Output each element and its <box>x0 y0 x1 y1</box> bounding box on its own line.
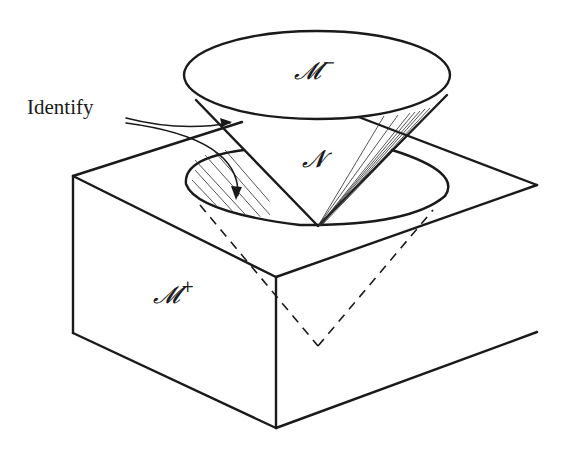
box-bottom-left-edge <box>73 333 276 428</box>
label-n-base: 𝓝 <box>302 145 325 173</box>
cone-box-diagram <box>0 0 575 455</box>
box-front-left-top-edge <box>73 176 276 277</box>
label-m-minus-sup: − <box>322 53 335 72</box>
label-identify: Identify <box>27 95 93 120</box>
label-n: 𝓝 <box>302 145 325 173</box>
box-top-right-edge <box>356 116 537 185</box>
label-identify-text: Identify <box>27 95 93 119</box>
label-m-plus-base: 𝓜 <box>153 281 180 309</box>
arrowhead-lower-icon <box>231 186 242 200</box>
label-m-minus-base: 𝓜 <box>294 57 321 85</box>
label-m-minus: 𝓜− <box>294 53 335 85</box>
label-m-plus-sup: + <box>181 277 194 296</box>
box-bottom-right-edge <box>276 332 537 428</box>
label-m-plus: 𝓜+ <box>153 277 194 309</box>
box-front-right-top-edge <box>276 185 537 277</box>
